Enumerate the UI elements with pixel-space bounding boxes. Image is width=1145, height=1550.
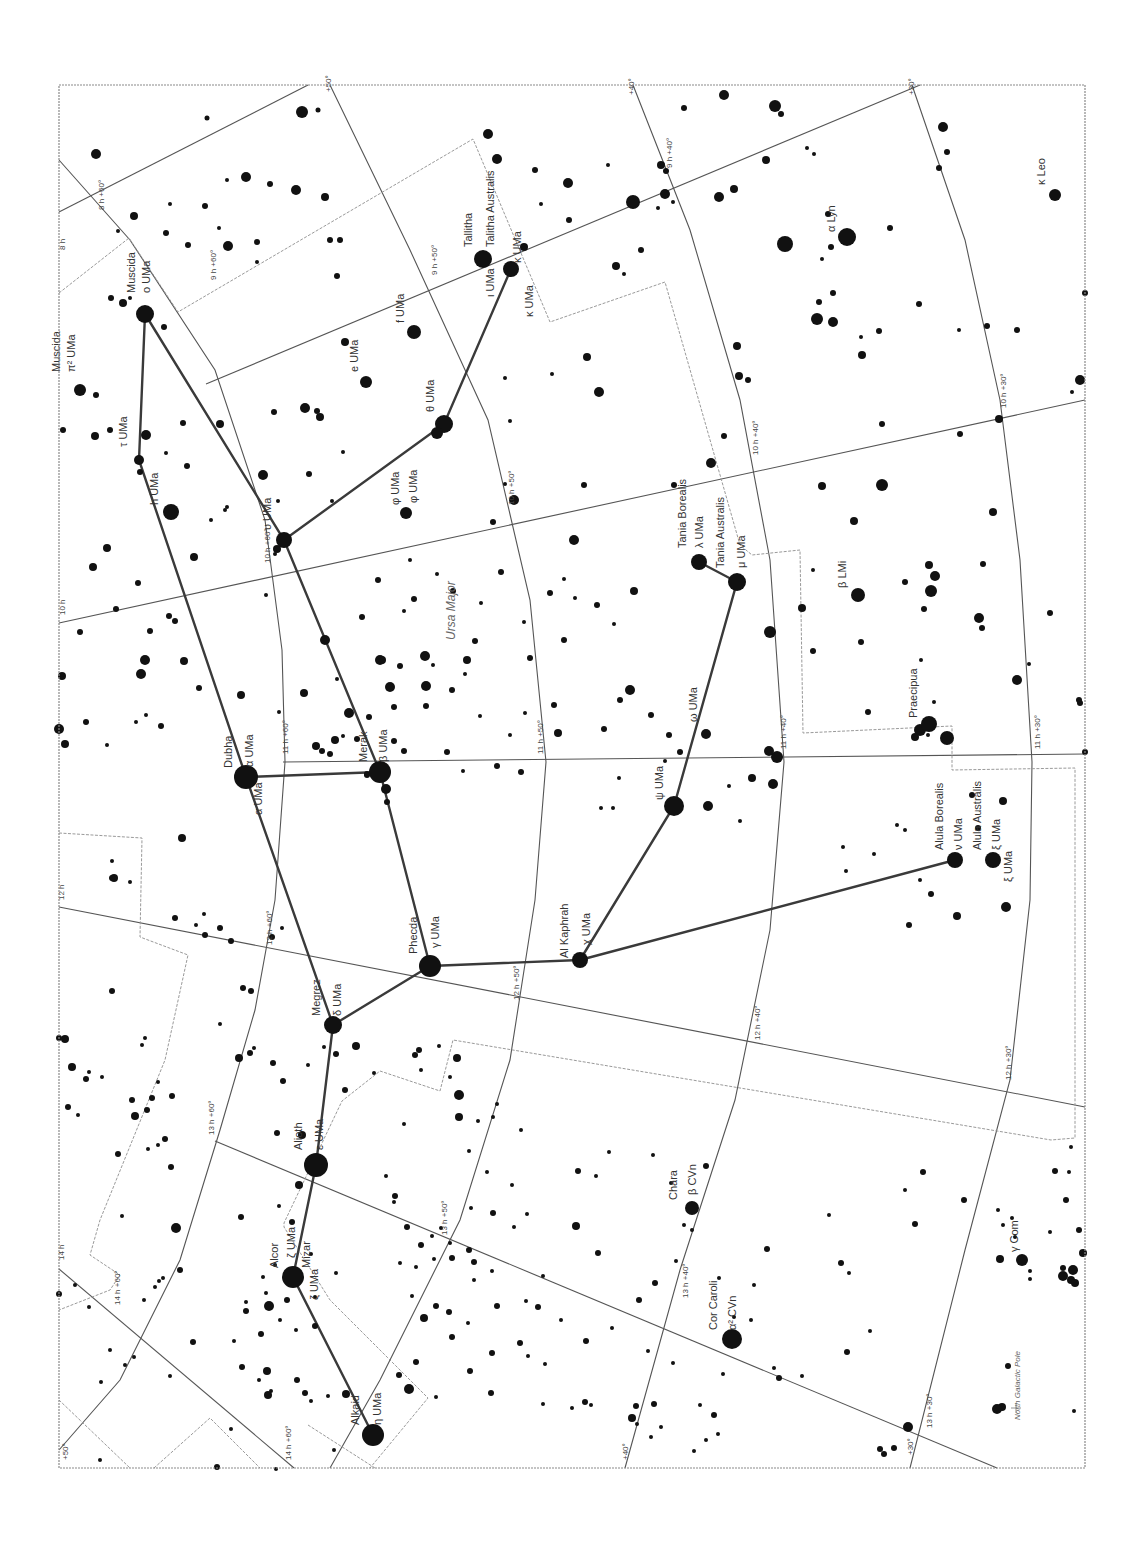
star-merak[interactable] bbox=[369, 761, 391, 783]
star-alioth[interactable] bbox=[304, 1153, 328, 1177]
field-star bbox=[777, 236, 793, 252]
field-star bbox=[413, 1359, 419, 1365]
field-star bbox=[903, 828, 907, 832]
field-star bbox=[918, 878, 922, 882]
field-star bbox=[827, 1213, 831, 1217]
field-star bbox=[314, 408, 320, 414]
field-star bbox=[120, 1214, 124, 1218]
field-star bbox=[467, 1368, 473, 1374]
star-al-kaphrah[interactable] bbox=[572, 952, 588, 968]
star--lyn[interactable] bbox=[838, 228, 856, 246]
field-star bbox=[490, 519, 496, 525]
star-tania-australis[interactable] bbox=[728, 573, 746, 591]
grid-coordinate-label: 10 h +50° bbox=[507, 470, 516, 505]
field-star bbox=[554, 729, 562, 737]
star-chara[interactable] bbox=[685, 1201, 699, 1215]
field-star bbox=[1048, 1230, 1052, 1234]
star-e-uma[interactable] bbox=[360, 376, 372, 388]
field-star bbox=[244, 1300, 248, 1304]
star-phecda[interactable] bbox=[419, 955, 441, 977]
star--com[interactable] bbox=[1016, 1254, 1028, 1266]
field-star bbox=[798, 604, 806, 612]
grid-coordinate-label: 10 h +60° bbox=[263, 528, 272, 563]
field-star bbox=[320, 635, 330, 645]
star-13[interactable] bbox=[431, 427, 443, 439]
star-alula-australis[interactable] bbox=[985, 852, 1001, 868]
star-muscida[interactable] bbox=[74, 384, 86, 396]
star-h-uma[interactable] bbox=[163, 504, 179, 520]
field-star bbox=[93, 392, 99, 398]
field-star bbox=[711, 1412, 717, 1418]
field-star bbox=[1028, 1269, 1032, 1273]
star--uma[interactable] bbox=[664, 796, 684, 816]
field-star bbox=[161, 1276, 165, 1280]
star-label: γ Com bbox=[1008, 1220, 1020, 1252]
asterism-line-10 bbox=[580, 860, 955, 960]
field-star bbox=[589, 1403, 593, 1407]
field-star bbox=[115, 1151, 121, 1157]
boundary-1 bbox=[59, 833, 188, 1310]
field-star bbox=[392, 1200, 396, 1204]
field-star bbox=[454, 1090, 464, 1100]
star-praecipua[interactable] bbox=[921, 716, 937, 732]
field-star bbox=[698, 1403, 702, 1407]
star-tallitha[interactable] bbox=[474, 250, 492, 268]
field-star bbox=[999, 797, 1007, 805]
star-f-uma[interactable] bbox=[407, 325, 421, 339]
star-label: α UMa bbox=[252, 781, 264, 815]
field-star bbox=[241, 172, 251, 182]
field-star bbox=[1052, 1168, 1058, 1174]
star--leo[interactable] bbox=[1049, 189, 1061, 201]
star-alula-borealis[interactable] bbox=[947, 852, 963, 868]
star-alkaid[interactable] bbox=[362, 1424, 384, 1446]
field-star bbox=[656, 206, 660, 210]
field-star bbox=[267, 181, 273, 187]
field-star bbox=[184, 463, 190, 469]
star-label: κ UMa bbox=[523, 284, 535, 317]
field-star bbox=[132, 1355, 136, 1359]
field-star bbox=[811, 313, 823, 325]
field-star bbox=[932, 700, 936, 704]
star--lmi[interactable] bbox=[851, 588, 865, 602]
star-label: Megrez bbox=[310, 979, 322, 1016]
star-cor-caroli[interactable] bbox=[722, 1329, 742, 1349]
star--uma[interactable] bbox=[276, 532, 292, 548]
field-star bbox=[402, 609, 406, 613]
field-star bbox=[612, 262, 620, 270]
star--uma[interactable] bbox=[400, 507, 412, 519]
field-star bbox=[128, 296, 132, 300]
star--uma[interactable] bbox=[701, 729, 711, 739]
field-star bbox=[384, 1174, 388, 1178]
field-star bbox=[1071, 1279, 1079, 1287]
field-star bbox=[410, 1294, 414, 1298]
star--uma[interactable] bbox=[134, 455, 144, 465]
field-star bbox=[876, 479, 888, 491]
field-star bbox=[733, 342, 741, 350]
field-star bbox=[168, 1374, 172, 1378]
field-star bbox=[401, 748, 407, 754]
star-tania-borealis[interactable] bbox=[691, 554, 707, 570]
field-star bbox=[648, 712, 654, 718]
star-label: δ UMa bbox=[331, 983, 343, 1016]
star-mizar[interactable] bbox=[282, 1266, 304, 1288]
star-label: Phecda bbox=[407, 916, 419, 954]
field-star bbox=[129, 1097, 135, 1103]
field-star bbox=[171, 1223, 181, 1233]
field-star bbox=[1063, 1197, 1069, 1203]
star-label: Talitha Australis bbox=[484, 170, 496, 247]
field-star bbox=[235, 1054, 243, 1062]
star-muscida[interactable] bbox=[136, 305, 154, 323]
field-star bbox=[330, 499, 334, 503]
field-star bbox=[518, 769, 524, 775]
star-label: λ UMa bbox=[693, 515, 705, 548]
field-star bbox=[60, 427, 66, 433]
field-star bbox=[449, 1334, 455, 1340]
star-megrez[interactable] bbox=[324, 1016, 342, 1034]
field-star bbox=[157, 1279, 161, 1283]
field-star bbox=[391, 704, 397, 710]
field-star bbox=[607, 1150, 611, 1154]
field-star bbox=[638, 247, 644, 253]
field-star bbox=[327, 751, 333, 757]
grid-coordinate-label: 11 h +30° bbox=[1033, 715, 1042, 749]
grid-coordinate-label: 13 h +60° bbox=[207, 1100, 216, 1135]
